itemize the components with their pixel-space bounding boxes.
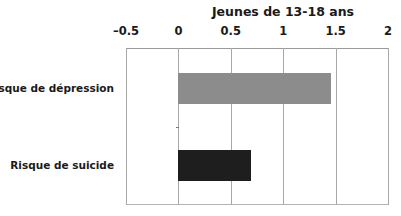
x-tick-label: 1 [279,24,287,38]
plot-area [126,48,388,205]
gridline [231,48,232,205]
x-axis-line [126,48,388,49]
gridline [388,48,389,205]
bar [178,73,331,104]
gridline [283,48,284,205]
plot-bottom-border [126,204,388,205]
x-tick-label: 1.5 [325,24,345,38]
gridline [126,48,127,205]
x-tick-label: –0.5 [113,24,139,38]
x-tick-label: 0.5 [221,24,241,38]
x-tick-label: 0 [174,24,182,38]
category-separator-tick [176,127,179,128]
gridline [336,48,337,205]
category-label: Risque de suicide [0,159,114,171]
bar [178,150,250,181]
category-label: Risque de dépression [0,82,114,94]
chart-title: Jeunes de 13-18 ans [178,4,388,19]
x-tick-label: 2 [384,24,392,38]
